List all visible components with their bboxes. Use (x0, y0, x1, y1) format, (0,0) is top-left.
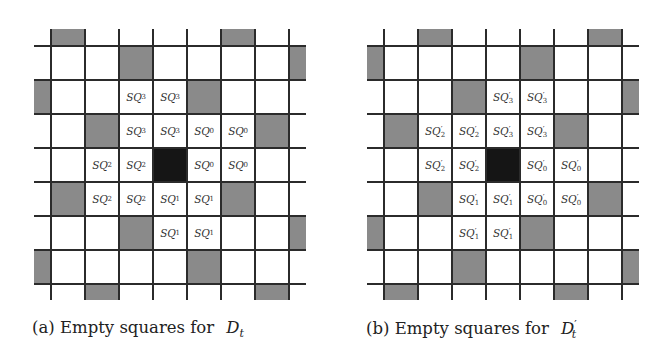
grid-line-vertical (553, 29, 555, 300)
grid-line-horizontal (367, 215, 639, 217)
subscript-index: 0 (543, 200, 547, 207)
grey-occupied-square (367, 46, 384, 80)
square-label-sq1-prime: SQ′1 (452, 216, 486, 250)
grid-line-horizontal (367, 181, 639, 183)
grey-occupied-square (384, 114, 418, 148)
grid-line-vertical (519, 29, 521, 300)
square-label-sq1-prime: SQ′1 (486, 216, 520, 250)
grid-line-horizontal (367, 45, 639, 47)
grid-line-vertical (383, 29, 385, 300)
square-label-text: SQ (459, 227, 474, 239)
center-occupied-square (486, 148, 520, 182)
square-label-text: SQ (425, 159, 440, 171)
square-label-sq3-prime: SQ′3 (486, 80, 520, 114)
subscript-index: 1 (475, 200, 479, 207)
grey-occupied-square (520, 216, 554, 250)
square-label-sq0-prime: SQ′0 (520, 148, 554, 182)
grid-line-horizontal (367, 283, 639, 285)
square-label-sq2-prime: SQ′2 (452, 114, 486, 148)
subscript-index: 0 (577, 166, 581, 173)
caption-a-math-base: D (226, 318, 239, 337)
grey-occupied-square (554, 114, 588, 148)
caption-a-text: (a) Empty squares for (32, 318, 214, 337)
square-label-text: SQ (493, 125, 508, 137)
grey-occupied-square (520, 46, 554, 80)
square-label-sq0-prime: SQ′0 (520, 182, 554, 216)
square-label-text: SQ (493, 193, 508, 205)
subscript-index: 2 (475, 166, 479, 173)
subscript-index: 2 (441, 132, 445, 139)
subscript-index: 2 (475, 132, 479, 139)
subscript-index: 3 (509, 132, 513, 139)
grid-line-vertical (485, 29, 487, 300)
square-label-text: SQ (493, 227, 508, 239)
square-label-text: SQ (459, 125, 474, 137)
square-label-text: SQ (527, 193, 542, 205)
subscript-index: 3 (543, 98, 547, 105)
caption-b: (b) Empty squares forD′t (366, 318, 576, 341)
subscript-index: 1 (509, 200, 513, 207)
grey-occupied-square (588, 29, 622, 46)
grid-line-horizontal (367, 79, 639, 81)
grey-occupied-square (418, 182, 452, 216)
grey-occupied-square (452, 250, 486, 284)
grid-line-vertical (621, 29, 623, 300)
grey-occupied-square (367, 216, 384, 250)
grid-line-horizontal (367, 147, 639, 149)
grey-occupied-square (452, 80, 486, 114)
subscript-index: 2 (441, 166, 445, 173)
grid-line-horizontal (367, 113, 639, 115)
subscript-index: 1 (509, 234, 513, 241)
grid-line-vertical (417, 29, 419, 300)
square-label-sq0-prime: SQ′0 (554, 148, 588, 182)
caption-b-math: D′t (561, 319, 576, 338)
grey-occupied-square (384, 284, 418, 300)
square-label-sq3-prime: SQ′3 (520, 114, 554, 148)
caption-a: (a) Empty squares forDt (32, 318, 244, 340)
square-label-sq3-prime: SQ′3 (520, 80, 554, 114)
square-label-sq2-prime: SQ′2 (452, 148, 486, 182)
square-label-text: SQ (459, 159, 474, 171)
square-label-sq1-prime: SQ′1 (452, 182, 486, 216)
subscript-index: 3 (543, 132, 547, 139)
grid-line-vertical (587, 29, 589, 300)
subscript-index: 1 (475, 234, 479, 241)
caption-b-text: (b) Empty squares for (366, 319, 549, 338)
subscript-index: 3 (509, 98, 513, 105)
square-label-sq1-prime: SQ′1 (486, 182, 520, 216)
grey-occupied-square (418, 29, 452, 46)
square-label-sq2-prime: SQ′2 (418, 148, 452, 182)
square-label-text: SQ (459, 193, 474, 205)
grid-line-horizontal (367, 249, 639, 251)
grey-occupied-square (622, 250, 639, 284)
subscript-index: 0 (577, 200, 581, 207)
grey-occupied-square (622, 80, 639, 114)
square-label-text: SQ (561, 159, 576, 171)
square-label-sq2-prime: SQ′2 (418, 114, 452, 148)
grey-occupied-square (588, 182, 622, 216)
caption-a-math: Dt (226, 318, 244, 337)
square-label-sq3-prime: SQ′3 (486, 114, 520, 148)
caption-b-math-sub: t (572, 328, 576, 341)
square-label-sq0-prime: SQ′0 (554, 182, 588, 216)
square-label-text: SQ (493, 91, 508, 103)
subscript-index: 0 (543, 166, 547, 173)
caption-a-math-sub: t (239, 327, 243, 340)
grey-occupied-square (554, 284, 588, 300)
grid-line-vertical (451, 29, 453, 300)
square-label-text: SQ (425, 125, 440, 137)
panel-b-empty-squares-Dt-prime: SQ′3SQ′3SQ′2SQ′2SQ′3SQ′3SQ′2SQ′2SQ′0SQ′0… (0, 0, 333, 300)
square-label-text: SQ (527, 159, 542, 171)
square-label-text: SQ (527, 91, 542, 103)
square-label-text: SQ (527, 125, 542, 137)
square-label-text: SQ (561, 193, 576, 205)
